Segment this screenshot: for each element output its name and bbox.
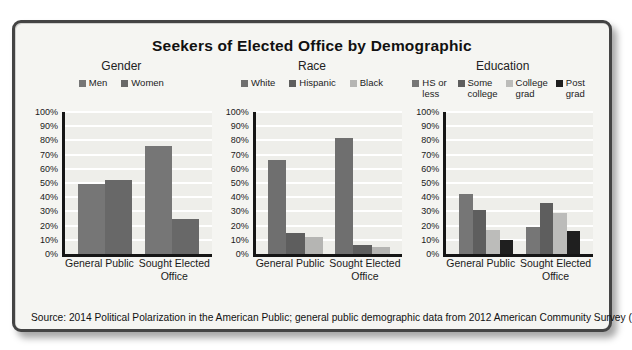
y-tick-30: 30% [421,206,439,216]
legend-item-white: White [241,78,275,89]
bar-group-sought-elected-office [526,112,580,254]
legend-label-hispanic: Hispanic [299,78,335,89]
bar-race-general-public-black [305,237,323,254]
y-tick-80: 80% [421,135,439,145]
legend-item-post-grad: Post grad [556,78,593,100]
legend-swatch-black-icon [350,80,357,87]
x-label-general-public: General Public [62,254,137,282]
x-label-general-public: General Public [443,254,518,282]
legend-label-post-grad: Post grad [566,78,593,100]
y-tick-20: 20% [421,221,439,231]
y-tick-40: 40% [231,192,249,202]
y-tick-50: 50% [40,178,58,188]
chart-panels: GenderMenWomen100%90%80%70%60%50%40%30%2… [31,59,593,308]
y-tick-30: 30% [231,206,249,216]
bar-education-sought-elected-office-hs-or-less [526,227,540,254]
y-tick-80: 80% [40,135,58,145]
y-tick-30: 30% [40,206,58,216]
y-tick-0: 0% [236,249,249,259]
bar-group-sought-elected-office [335,112,389,254]
bar-group-general-public [78,112,132,254]
legend-swatch-white-icon [241,80,248,87]
legend-item-hs-or-less: HS or less [412,78,449,100]
y-axis-race: 100%90%80%70%60%50%40%30%20%10%0% [222,112,253,254]
y-tick-10: 10% [421,235,439,245]
legend-gender: MenWomen [31,78,212,110]
legend-swatch-post-grad-icon [556,80,563,87]
legend-label-black: Black [360,78,383,89]
bar-gender-general-public-men [78,184,105,254]
bar-groups-education [446,112,593,254]
panel-title-race: Race [222,59,403,73]
y-tick-90: 90% [231,121,249,131]
y-tick-0: 0% [45,249,58,259]
bar-groups-race [256,112,403,254]
chart-title: Seekers of Elected Office by Demographic [31,37,593,55]
y-tick-70: 70% [231,150,249,160]
y-tick-90: 90% [421,121,439,131]
y-axis-gender: 100%90%80%70%60%50%40%30%20%10%0% [31,112,62,254]
y-tick-60: 60% [40,164,58,174]
legend-label-hs-or-less: HS or less [422,78,449,100]
y-tick-70: 70% [40,150,58,160]
x-labels-education: General PublicSought Elected Office [443,254,593,282]
panel-gender: GenderMenWomen100%90%80%70%60%50%40%30%2… [31,59,212,308]
x-labels-gender: General PublicSought Elected Office [62,254,212,282]
x-label-sought-elected-office: Sought Elected Office [137,254,212,282]
panel-title-education: Education [412,59,593,73]
bar-education-general-public-some-college [473,210,487,254]
y-tick-70: 70% [421,150,439,160]
bar-group-sought-elected-office [145,112,199,254]
legend-label-some-college: Some college [468,78,498,100]
y-tick-50: 50% [421,178,439,188]
chart-area-education: 100%90%80%70%60%50%40%30%20%10%0% [412,112,593,254]
chart-area-race: 100%90%80%70%60%50%40%30%20%10%0% [222,112,403,254]
bar-education-sought-elected-office-some-college [540,203,554,254]
legend-item-black: Black [350,78,383,89]
y-tick-20: 20% [231,221,249,231]
x-labels-race: General PublicSought Elected Office [253,254,403,282]
legend-item-hispanic: Hispanic [289,78,335,89]
plot-education [443,112,593,257]
y-tick-40: 40% [40,192,58,202]
bar-education-general-public-hs-or-less [459,194,473,254]
bar-education-sought-elected-office-college-grad [553,213,567,254]
x-label-sought-elected-office: Sought Elected Office [518,254,593,282]
chart-card: Seekers of Elected Office by Demographic… [12,20,612,332]
legend-education: HS or lessSome collegeCollege gradPost g… [412,78,593,110]
bar-race-sought-elected-office-black [372,247,390,254]
y-tick-50: 50% [231,178,249,188]
bar-gender-sought-elected-office-men [145,146,172,254]
panel-education: EducationHS or lessSome collegeCollege g… [412,59,593,308]
legend-swatch-men-icon [79,80,86,87]
y-tick-0: 0% [426,249,439,259]
y-axis-education: 100%90%80%70%60%50%40%30%20%10%0% [412,112,443,254]
y-tick-90: 90% [40,121,58,131]
y-tick-40: 40% [421,192,439,202]
bar-group-general-public [268,112,322,254]
legend-label-college-grad: College grad [516,78,548,100]
bar-education-general-public-post-grad [500,240,514,254]
panel-race: RaceWhiteHispanicBlack100%90%80%70%60%50… [222,59,403,308]
bar-education-sought-elected-office-post-grad [567,231,581,254]
legend-swatch-some-college-icon [458,80,465,87]
y-tick-100: 100% [35,107,58,117]
legend-item-women: Women [121,78,164,89]
y-tick-100: 100% [416,107,439,117]
legend-swatch-women-icon [121,80,128,87]
bar-groups-gender [65,112,212,254]
legend-item-men: Men [79,78,107,89]
source-note: Source: 2014 Political Polarization in t… [31,312,593,323]
bar-race-sought-elected-office-white [335,138,353,254]
legend-item-some-college: Some college [458,78,498,100]
bar-race-general-public-white [268,160,286,254]
legend-race: WhiteHispanicBlack [222,78,403,110]
bar-gender-sought-elected-office-women [172,219,199,255]
bar-group-general-public [459,112,513,254]
x-label-sought-elected-office: Sought Elected Office [328,254,403,282]
legend-item-college-grad: College grad [506,78,548,100]
y-tick-20: 20% [40,221,58,231]
y-tick-100: 100% [226,107,249,117]
legend-swatch-hs-or-less-icon [412,80,419,87]
y-tick-60: 60% [231,164,249,174]
